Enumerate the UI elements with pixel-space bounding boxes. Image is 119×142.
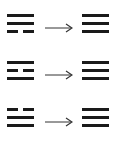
solid-line xyxy=(7,22,34,25)
arrow-right-icon xyxy=(45,117,73,127)
trigram-li xyxy=(7,61,34,83)
broken-line-left xyxy=(7,69,18,72)
solid-line xyxy=(82,14,109,17)
solid-line xyxy=(82,69,109,72)
solid-line xyxy=(82,124,109,127)
solid-line xyxy=(82,116,109,119)
trigram-qian xyxy=(82,14,109,36)
broken-line-right xyxy=(23,30,34,33)
solid-line xyxy=(7,77,34,80)
trigram-xun xyxy=(7,108,34,130)
trigram-qian xyxy=(82,108,109,130)
trigram-qian xyxy=(82,61,109,83)
broken-line-right xyxy=(23,69,34,72)
transformation-row-1 xyxy=(0,14,119,44)
broken-line-left xyxy=(7,108,18,111)
solid-line xyxy=(82,30,109,33)
arrow-right-icon xyxy=(45,70,73,80)
solid-line xyxy=(7,124,34,127)
transformation-row-2 xyxy=(0,61,119,91)
solid-line xyxy=(82,22,109,25)
solid-line xyxy=(7,61,34,64)
trigram-dui xyxy=(7,14,34,36)
solid-line xyxy=(7,116,34,119)
solid-line xyxy=(82,77,109,80)
solid-line xyxy=(82,108,109,111)
arrow-right-icon xyxy=(45,23,73,33)
transformation-row-3 xyxy=(0,108,119,138)
solid-line xyxy=(82,61,109,64)
broken-line-left xyxy=(7,30,18,33)
solid-line xyxy=(7,14,34,17)
broken-line-right xyxy=(23,108,34,111)
